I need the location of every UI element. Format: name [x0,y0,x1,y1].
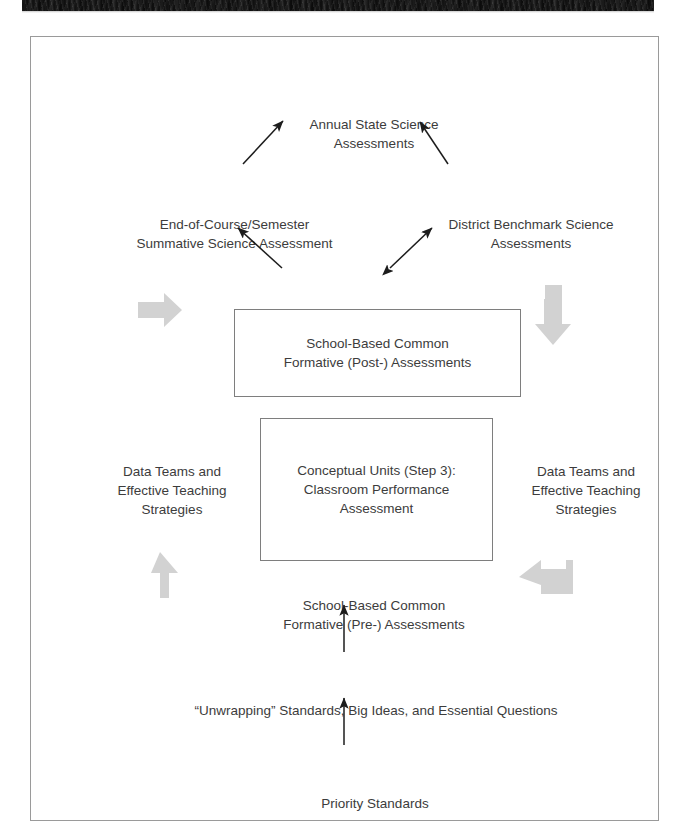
figure-frame: Annual State Science Assessments End-of-… [30,36,659,821]
header-band-shadow [22,11,654,13]
node-priority-standards: Priority Standards [275,794,475,813]
node-annual-state-science-assessments: Annual State Science Assessments [259,115,489,153]
node-school-based-common-formative-post-assessments: School-Based Common Formative (Post-) As… [234,309,521,397]
node-data-teams-effective-teaching-right: Data Teams and Effective Teaching Strate… [509,462,663,519]
node-end-of-course-summative-assessment: End-of-Course/Semester Summative Science… [117,215,352,253]
node-unwrapping-standards-big-ideas-essential-questions: “Unwrapping” Standards, Big Ideas, and E… [141,701,611,720]
page-header-band [22,0,654,11]
node-school-based-common-formative-pre-assessments: School-Based Common Formative (Pre-) Ass… [259,596,489,634]
node-conceptual-units-classroom-performance-assessment: Conceptual Units (Step 3): Classroom Per… [260,418,493,561]
header-band-texture [22,0,654,11]
node-district-benchmark-assessments: District Benchmark Science Assessments [421,215,641,253]
node-data-teams-effective-teaching-left: Data Teams and Effective Teaching Strate… [95,462,249,519]
